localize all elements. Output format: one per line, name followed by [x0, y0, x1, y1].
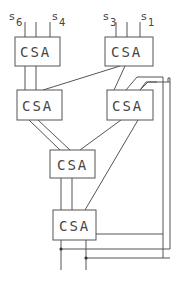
svg-text:s: s: [52, 10, 58, 23]
svg-text:6: 6: [16, 17, 22, 28]
csa-node-5: CSA: [50, 150, 95, 178]
svg-text:4: 4: [59, 17, 65, 28]
svg-text:3: 3: [110, 17, 116, 28]
input-label-s6: s 6: [9, 10, 22, 28]
svg-text:CSA: CSA: [112, 98, 143, 114]
svg-text:s: s: [103, 10, 109, 23]
svg-text:CSA: CSA: [111, 44, 142, 60]
svg-text:1: 1: [148, 17, 154, 28]
svg-text:CSA: CSA: [57, 157, 88, 173]
csa-node-6: CSA: [53, 210, 96, 240]
csa-node-2: CSA: [105, 37, 153, 66]
svg-text:s: s: [9, 10, 15, 23]
csa-tree-diagram: CSA CSA CSA CSA CSA CSA s 6 s 4 s 3 s 1: [0, 0, 175, 281]
svg-text:CSA: CSA: [22, 98, 53, 114]
csa-node-3: CSA: [17, 90, 62, 120]
input-label-s1: s 1: [141, 10, 154, 28]
csa-node-1: CSA: [15, 37, 60, 66]
svg-text:s: s: [141, 10, 147, 23]
svg-text:CSA: CSA: [59, 218, 90, 234]
input-label-s4: s 4: [52, 10, 65, 28]
input-label-s3: s 3: [103, 10, 116, 28]
svg-text:CSA: CSA: [20, 44, 51, 60]
csa-node-4: CSA: [107, 90, 153, 120]
